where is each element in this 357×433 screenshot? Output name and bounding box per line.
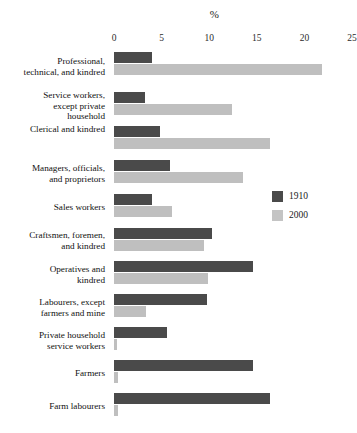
axis-title-label: % — [210, 8, 219, 20]
category-label: Professional, technical, and kindred — [0, 56, 105, 77]
legend-swatch-icon — [272, 210, 283, 221]
x-tick-0: 0 — [112, 33, 117, 43]
x-tick-5: 5 — [159, 33, 164, 43]
chart-legend: 19102000 — [272, 188, 342, 226]
legend-item-1910[interactable]: 1910 — [272, 188, 342, 204]
bar-2000 — [114, 405, 118, 416]
bar-1910 — [114, 160, 170, 171]
bar-2000 — [114, 138, 270, 149]
bar-2000 — [114, 372, 118, 383]
bar-2000 — [114, 339, 117, 350]
bar-1910 — [114, 228, 212, 239]
bar-1910 — [114, 52, 152, 63]
bar-1910 — [114, 327, 167, 338]
category-label: Sales workers — [0, 202, 105, 213]
bar-1910 — [114, 261, 253, 272]
bar-2000 — [114, 306, 146, 317]
category-label: Farm labourers — [0, 401, 105, 412]
bar-1910 — [114, 194, 152, 205]
plot-area — [114, 52, 352, 424]
x-tick-15: 15 — [252, 33, 262, 43]
category-label: Clerical and kindred — [0, 124, 105, 135]
x-axis-tick-labels: 0510152025 — [114, 33, 352, 47]
bar-2000 — [114, 273, 208, 284]
bar-1910 — [114, 360, 253, 371]
axis-title: % — [0, 8, 353, 20]
category-label: Operatives and kindred — [0, 264, 105, 285]
legend-item-2000[interactable]: 2000 — [272, 207, 342, 223]
bar-1910 — [114, 92, 145, 103]
category-label: Service workers, except private househol… — [0, 90, 105, 122]
bar-2000 — [114, 206, 172, 217]
bar-1910 — [114, 126, 160, 137]
x-tick-25: 25 — [347, 33, 357, 43]
category-label: Managers, officials, and proprietors — [0, 163, 105, 184]
bar-2000 — [114, 104, 232, 115]
legend-label: 2000 — [289, 210, 308, 220]
bar-1910 — [114, 393, 270, 404]
legend-label: 1910 — [289, 191, 308, 201]
legend-swatch-icon — [272, 191, 283, 202]
bar-2000 — [114, 172, 243, 183]
category-label: Farmers — [0, 368, 105, 379]
bar-1910 — [114, 294, 207, 305]
x-tick-10: 10 — [204, 33, 214, 43]
x-tick-20: 20 — [300, 33, 310, 43]
category-label: Private household service workers — [0, 330, 105, 351]
category-label: Labourers, except farmers and mine — [0, 297, 105, 318]
bar-2000 — [114, 240, 204, 251]
bar-2000 — [114, 64, 322, 75]
category-label: Craftsmen, foremen, and kindred — [0, 230, 105, 251]
